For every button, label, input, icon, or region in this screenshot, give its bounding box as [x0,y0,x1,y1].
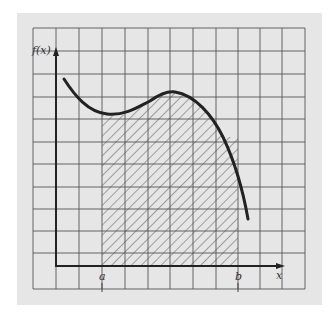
y-axis-label: f(x) [31,44,51,57]
lower-limit-label: a [99,270,106,283]
integral-diagram: f(x) x a b [0,0,333,316]
upper-limit-label: b [235,270,242,283]
x-axis-label: x [276,269,283,282]
